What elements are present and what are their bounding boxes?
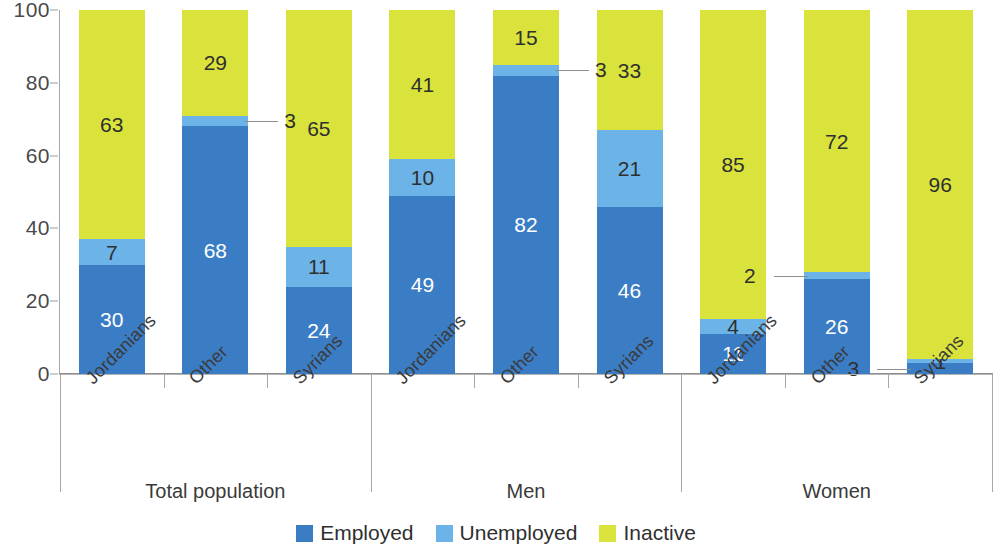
y-axis-tick-label: 40	[26, 216, 50, 240]
group-label: Women	[802, 480, 871, 503]
bar-segment-inactive[interactable]: 29	[182, 10, 248, 116]
bar-segment-value: 30	[100, 309, 123, 330]
bar-segment-value: 29	[204, 52, 227, 73]
bar-segment-inactive[interactable]: 41	[389, 10, 455, 159]
callout-value: 3	[284, 109, 296, 133]
y-axis-tick-mark	[50, 82, 58, 83]
bar-segment-value: 49	[411, 274, 434, 295]
y-axis-tick-label: 60	[26, 144, 50, 168]
bar-segment-value: 46	[618, 280, 641, 301]
bar[interactable]: 26272	[804, 10, 870, 374]
callout-leader-line	[877, 369, 911, 370]
bar-segment-value: 65	[307, 118, 330, 139]
bar-segment-value: 15	[514, 27, 537, 48]
y-axis-tick-mark	[50, 374, 58, 375]
callout-leader-line	[555, 70, 589, 71]
bar[interactable]: 68329	[182, 10, 248, 374]
legend-item[interactable]: Unemployed	[436, 521, 578, 545]
bar-segment-value: 10	[411, 167, 434, 188]
category-labels: JordaniansOtherSyriansJordaniansOtherSyr…	[60, 374, 992, 454]
bar-segment-value: 63	[100, 114, 123, 135]
callout-leader-line	[774, 276, 808, 277]
bar-segment-value: 33	[618, 60, 641, 81]
y-axis-tick-label: 100	[13, 0, 50, 22]
bar-segment-value: 82	[514, 214, 537, 235]
bar-segment-inactive[interactable]: 85	[700, 10, 766, 319]
group-labels: Total populationMenWomen	[60, 480, 992, 510]
group-separator	[60, 374, 61, 492]
bar-segment-value: 26	[825, 316, 848, 337]
bar-segment-unemployed[interactable]: 7	[79, 239, 145, 264]
bar-segment-value: 68	[204, 240, 227, 261]
legend-swatch-icon	[599, 525, 616, 542]
legend-label: Unemployed	[460, 521, 578, 545]
legend-label: Inactive	[623, 521, 695, 545]
bar-segment-inactive[interactable]: 72	[804, 10, 870, 272]
bar-segment-inactive[interactable]: 15	[493, 10, 559, 65]
bar-segment-unemployed[interactable]: 10	[389, 159, 455, 195]
group-separator	[371, 374, 372, 492]
bar[interactable]: 82315	[493, 10, 559, 374]
bar-segment-value: 41	[411, 74, 434, 95]
bar-segment-value: 21	[618, 158, 641, 179]
bar-segment-value: 7	[106, 242, 118, 263]
y-axis-tick-label: 20	[26, 289, 50, 313]
bar-segment-value: 11	[308, 256, 330, 277]
legend-item[interactable]: Employed	[296, 521, 413, 545]
bar-segment-unemployed[interactable]: 2	[804, 272, 870, 279]
bar-segment-value: 96	[929, 174, 952, 195]
legend-label: Employed	[320, 521, 413, 545]
y-axis-tick-mark	[50, 155, 58, 156]
y-axis-tick-mark	[50, 301, 58, 302]
bar-segment-unemployed[interactable]: 3	[493, 65, 559, 76]
y-axis-tick-mark	[50, 10, 58, 11]
legend-item[interactable]: Inactive	[599, 521, 695, 545]
bar-segment-unemployed[interactable]: 21	[597, 130, 663, 206]
bar[interactable]: 3196	[907, 10, 973, 374]
callout-leader-line	[244, 121, 278, 122]
bar-segment-inactive[interactable]: 96	[907, 10, 973, 359]
y-axis-tick-label: 80	[26, 71, 50, 95]
bar-segment-unemployed[interactable]: 3	[182, 116, 248, 127]
y-axis-tick-mark	[50, 228, 58, 229]
plot-area: 020406080100 307636832924116549104182315…	[60, 10, 992, 374]
bar-segment-unemployed[interactable]: 11	[286, 247, 352, 287]
y-axis-tick-label: 0	[38, 362, 50, 386]
bar-series-container: 3076368329241165491041823154621331148526…	[60, 10, 992, 374]
bar-segment-value: 72	[825, 131, 848, 152]
bar-segment-employed[interactable]: 82	[493, 76, 559, 374]
group-label: Men	[507, 480, 546, 503]
bar-segment-value: 85	[721, 154, 744, 175]
callout-value: 2	[744, 264, 756, 288]
callout-value: 3	[595, 58, 607, 82]
bar[interactable]: 241165	[286, 10, 352, 374]
bar-segment-inactive[interactable]: 63	[79, 10, 145, 239]
bar-segment-employed[interactable]: 68	[182, 126, 248, 374]
group-separator	[681, 374, 682, 492]
legend-swatch-icon	[296, 525, 313, 542]
legend-swatch-icon	[436, 525, 453, 542]
chart-legend: EmployedUnemployedInactive	[0, 521, 992, 545]
group-label: Total population	[145, 480, 285, 503]
